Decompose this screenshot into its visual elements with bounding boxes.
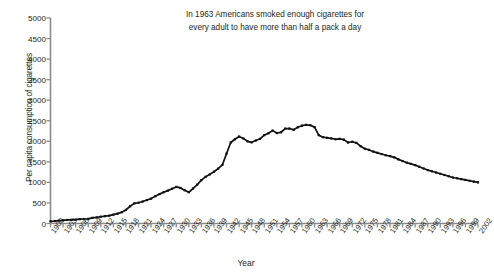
x-axis-tick-label: 1942 bbox=[225, 216, 242, 235]
x-axis-tick-label: 1999 bbox=[464, 216, 481, 235]
x-axis-tick-label: 1900 bbox=[49, 216, 66, 235]
x-axis-tick-label: 1963 bbox=[313, 216, 330, 235]
x-axis-tick-label: 2002 bbox=[477, 216, 494, 235]
x-axis-tick-label: 1984 bbox=[401, 216, 418, 235]
x-axis-tick-label: 1921 bbox=[137, 216, 154, 235]
